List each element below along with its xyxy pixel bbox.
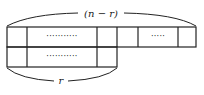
partition-diagram: (n − r) ··········· ····· ··········· r bbox=[0, 0, 204, 95]
top-brace-label: (n − r) bbox=[84, 8, 118, 19]
top-row-dots: ··········· bbox=[46, 32, 77, 41]
bottom-row-dots: ··········· bbox=[46, 52, 77, 61]
bottom-brace-label: r bbox=[59, 75, 65, 86]
top-row-dots-right: ····· bbox=[151, 32, 165, 41]
